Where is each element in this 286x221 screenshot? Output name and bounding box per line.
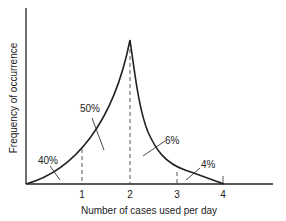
annotation-4: 4% (201, 159, 216, 170)
x-tick-2: 2 (127, 189, 133, 200)
demand-distribution-chart: 40% 50% 6% 4% 1 2 3 4 Number of cases us… (0, 0, 286, 221)
annotation-6: 6% (165, 135, 180, 146)
annotation-50: 50% (80, 103, 100, 114)
x-tick-3: 3 (174, 189, 180, 200)
x-tick-1: 1 (79, 189, 85, 200)
annotation-40: 40% (38, 155, 58, 166)
y-axis-label: Frequency of occurrence (8, 42, 19, 153)
x-tick-4: 4 (220, 189, 226, 200)
x-axis-label: Number of cases used per day (81, 205, 217, 216)
